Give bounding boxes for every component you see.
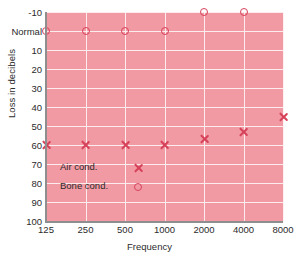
y-axis-title: Loss in decibels	[6, 29, 17, 139]
data-point-air-cond-8000hz[interactable]	[278, 111, 289, 122]
y-axis-tick-label: -10	[0, 7, 42, 18]
legend-label-bone-cond: Bone cond.	[60, 180, 108, 191]
x-axis-tick-label: 500	[117, 224, 133, 235]
x-axis-title: Frequency	[0, 241, 299, 252]
x-axis-tick-label: 8000	[272, 224, 293, 235]
data-point-bone-cond-2000hz[interactable]	[200, 8, 208, 16]
data-point-air-cond-4000hz[interactable]	[238, 126, 249, 137]
legend-marker-circle-icon	[134, 183, 142, 191]
y-axis-tick-label: 60	[0, 140, 42, 151]
x-axis-tick-label: 4000	[233, 224, 254, 235]
data-point-air-cond-250hz[interactable]	[80, 140, 91, 151]
legend-label-air-cond: Air cond.	[60, 161, 98, 172]
data-point-air-cond-2000hz[interactable]	[199, 134, 210, 145]
y-axis-tick-label: 90	[0, 197, 42, 208]
data-point-air-cond-500hz[interactable]	[120, 140, 131, 151]
x-axis-tick-label: 2000	[193, 224, 214, 235]
y-axis-tick-label: 80	[0, 178, 42, 189]
plot-area: Air cond. Bone cond.	[46, 12, 283, 221]
y-axis-line	[45, 12, 47, 222]
x-axis-line	[45, 221, 283, 223]
data-point-bone-cond-4000hz[interactable]	[240, 8, 248, 16]
x-axis-tick-label: 125	[38, 224, 54, 235]
data-point-bone-cond-500hz[interactable]	[121, 27, 129, 35]
y-axis-tick-label: 100	[0, 216, 42, 227]
x-axis-tick-label: 1000	[154, 224, 175, 235]
y-axis-tick-label: 70	[0, 159, 42, 170]
legend-marker-x-icon	[133, 163, 144, 174]
data-point-bone-cond-250hz[interactable]	[82, 27, 90, 35]
audiogram-chart: Air cond. Bone cond. -10Normal1020304050…	[0, 0, 299, 261]
data-point-air-cond-1000hz[interactable]	[159, 140, 170, 151]
x-axis-tick-label: 250	[78, 224, 94, 235]
data-point-bone-cond-1000hz[interactable]	[161, 27, 169, 35]
